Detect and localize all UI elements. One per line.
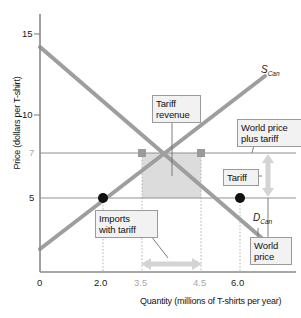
tariff-revenue-callout: Tariff revenue: [152, 95, 201, 123]
domestic-demand-dot: [235, 193, 245, 203]
y-tick-label-15: 15: [22, 28, 33, 39]
imports-with-tariff-arrow: [141, 258, 202, 270]
y-tick-label-7: 7: [29, 147, 34, 158]
x-tick-label-0: 0: [37, 277, 42, 288]
domestic-supply-dot: [98, 193, 108, 203]
x-tick-label-3-5: 3.5: [134, 277, 147, 288]
x-tick-label-6-0: 6.0: [231, 277, 244, 288]
x-tick-label-4-5: 4.5: [193, 277, 206, 288]
x-axis-title: Quantity (millions of T-shirts per year): [140, 296, 281, 306]
y-tick-label-5: 5: [29, 192, 34, 203]
tariff-callout: Tariff: [223, 169, 259, 186]
supply-tariff-marker: [138, 149, 146, 157]
supply-curve-label-sub: Can: [268, 70, 280, 77]
imports-with-tariff-leader: [151, 236, 168, 258]
demand-tariff-marker: [197, 149, 205, 157]
imports-with-tariff-callout: Imports with tariff: [95, 210, 158, 238]
world-price-callout: World price: [250, 237, 292, 265]
tariff-supply-demand-figure: Price (dollars per T-shirt) Quantity (mi…: [0, 0, 301, 318]
x-tick-label-2-0: 2.0: [94, 277, 107, 288]
world-price-plus-tariff-callout: World price plus tariff: [237, 119, 301, 147]
supply-curve-label: SCan: [261, 64, 280, 77]
chart-plot-area: [0, 0, 301, 318]
supply-curve-label-text: S: [261, 64, 268, 75]
demand-curve-label-sub: Can: [260, 218, 272, 225]
y-tick-label-10: 10: [22, 109, 33, 120]
demand-curve-label: DCan: [253, 212, 272, 225]
tariff-arrow: [262, 154, 274, 197]
y-axis-title: Price (dollars per T-shirt): [12, 73, 22, 173]
figure-caption: [3, 307, 153, 316]
